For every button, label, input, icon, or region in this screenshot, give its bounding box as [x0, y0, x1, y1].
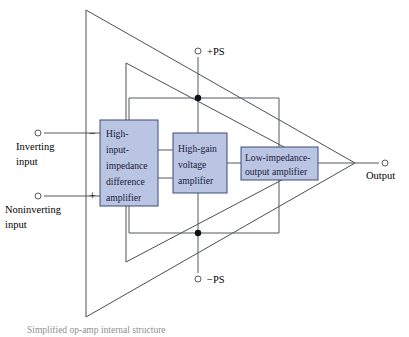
voltage-amplifier-label-line-1: High-gain	[178, 143, 217, 154]
negative-supply-label: −PS	[207, 274, 225, 285]
positive-rail-junction-dot	[195, 95, 201, 101]
negative-rail-junction-dot	[195, 230, 201, 236]
difference-amplifier-label-line-3: impedance	[106, 160, 148, 171]
output-terminal-node[interactable]	[382, 160, 388, 166]
output-amplifier-label-line-2: output amplifier	[245, 166, 308, 177]
inverting-input-terminal-node[interactable]	[35, 130, 41, 136]
difference-amplifier-label-line-5: amplifier	[106, 192, 142, 203]
inverting-input-label-line-2: input	[16, 156, 38, 167]
terminal-positive-supply[interactable]: +PS	[195, 46, 225, 57]
figure-caption-text: Simplified op-amp internal structure	[27, 326, 166, 335]
block-output-amplifier: Low-impedance- output amplifier	[241, 147, 318, 180]
terminal-inverting-input[interactable]: Inverting input −	[16, 126, 96, 167]
inverting-input-minus-sign: −	[89, 126, 96, 140]
positive-supply-label: +PS	[207, 46, 225, 57]
output-label: Output	[366, 170, 395, 181]
noninverting-input-plus-sign: +	[89, 189, 96, 203]
opamp-block-diagram-figure: High- input- impedance difference amplif…	[0, 0, 409, 337]
difference-amplifier-label-line-1: High-	[106, 128, 128, 139]
difference-amplifier-label-line-2: input-	[106, 144, 129, 155]
voltage-amplifier-label-line-2: voltage	[178, 159, 206, 170]
block-difference-amplifier: High- input- impedance difference amplif…	[100, 120, 158, 206]
terminal-noninverting-input[interactable]: Noninverting input +	[5, 189, 96, 230]
positive-supply-terminal-node[interactable]	[195, 48, 201, 54]
inverting-input-label-line-1: Inverting	[16, 141, 55, 152]
noninverting-input-terminal-node[interactable]	[35, 193, 41, 199]
output-amplifier-label-line-1: Low-impedance-	[245, 152, 311, 163]
negative-supply-terminal-node[interactable]	[195, 276, 201, 282]
terminal-negative-supply[interactable]: −PS	[195, 274, 225, 285]
noninverting-input-label-line-1: Noninverting	[5, 204, 62, 215]
noninverting-input-label-line-2: input	[5, 219, 27, 230]
voltage-amplifier-label-line-3: amplifier	[178, 175, 214, 186]
figure-caption-clipped: Simplified op-amp internal structure	[0, 326, 409, 337]
difference-amplifier-label-line-4: difference	[106, 176, 145, 187]
opamp-diagram-canvas: High- input- impedance difference amplif…	[0, 0, 409, 337]
block-voltage-amplifier: High-gain voltage amplifier	[173, 133, 227, 193]
